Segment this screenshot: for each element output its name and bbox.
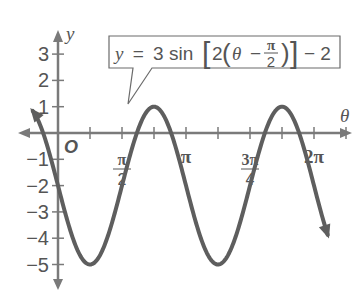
bracket-open: [ [202,36,211,69]
y-tick-label: −5 [26,254,49,276]
y-tick-label: −3 [26,201,49,223]
paren-open: ( [222,38,231,68]
y-tick-label: 2 [38,69,49,91]
y-tick-label: 3 [38,43,49,65]
x-axis-label: θ [340,105,349,126]
y-axis-down-arrow-icon [53,279,63,290]
frac-den: 2 [267,53,275,70]
equation-callout: y = 3 sin [ 2 ( θ − π 2 ) ] − 2 [109,36,340,104]
y-tick-label: −4 [26,227,49,249]
origin-label: O [64,137,78,157]
paren-close: ) [281,38,290,68]
sine-curve [33,107,328,265]
x-tick-label: π [181,146,192,167]
curve-right-arrow-icon [319,223,330,238]
y-axis-label: y [64,23,75,44]
equation-tail: − 2 [304,43,331,64]
y-tick-label: −2 [26,175,49,197]
bracket-close: ] [290,36,298,69]
minus-sign: − [250,43,261,64]
equation-text: y = 3 sin [113,43,193,64]
theta-var: θ [232,43,241,64]
y-axis-up-arrow-icon [53,30,63,42]
x-axis-left-arrow-icon [18,128,30,138]
y-tick-label: −1 [26,148,49,170]
frac-num: π [267,37,276,53]
chart-plot: π2π3π42π 321−1−2−3−4−5 y θ O y = 3 sin [… [0,0,362,290]
inner-coef: 2 [212,43,223,64]
